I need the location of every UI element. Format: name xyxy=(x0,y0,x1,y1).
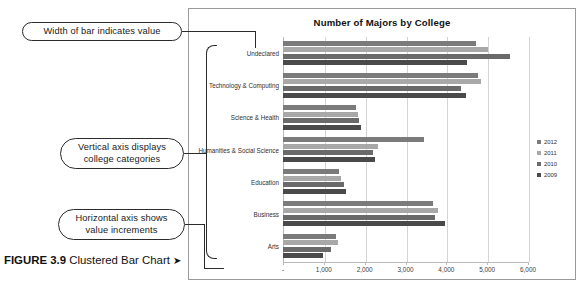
bar xyxy=(283,112,358,117)
bar xyxy=(283,105,356,110)
bar xyxy=(283,41,476,46)
bar xyxy=(283,73,478,78)
legend-item[interactable]: 2009 xyxy=(537,169,577,180)
legend-swatch-icon xyxy=(537,173,541,177)
bar xyxy=(283,157,375,162)
leader-line-3 xyxy=(185,224,205,225)
x-axis-tick xyxy=(324,262,325,265)
gridline xyxy=(488,37,489,262)
x-axis-tick xyxy=(406,262,407,265)
bar xyxy=(283,118,359,123)
x-axis-tick xyxy=(487,262,488,265)
x-axis-tick xyxy=(446,262,447,265)
x-axis-tick xyxy=(283,262,284,265)
legend-label: 2009 xyxy=(544,172,557,178)
leader-line-1-drop xyxy=(255,31,256,48)
annotation-text: Horizontal axis shows value increments xyxy=(68,213,175,236)
annotation-text: Vertical axis displays college categorie… xyxy=(70,142,174,165)
bar xyxy=(283,137,424,142)
x-axis-tick-label: 1,000 xyxy=(316,266,332,273)
bar xyxy=(283,182,344,187)
x-axis-tick xyxy=(365,262,366,265)
annotation-text: Width of bar indicates value xyxy=(43,26,160,37)
y-axis-category-label: Science & Health xyxy=(231,114,279,121)
bar xyxy=(283,93,466,98)
chart-legend: 2012201120102009 xyxy=(537,136,577,180)
legend-label: 2011 xyxy=(544,150,557,156)
bar xyxy=(283,234,336,239)
bar xyxy=(283,125,361,130)
legend-swatch-icon xyxy=(537,162,541,166)
category-axis-bracket xyxy=(206,45,217,259)
leader-line-3-drop xyxy=(204,224,205,269)
legend-item[interactable]: 2012 xyxy=(537,136,577,147)
bar xyxy=(283,208,438,213)
figure-caption: FIGURE 3.9 Clustered Bar Chart ➤ xyxy=(4,253,184,269)
bar xyxy=(283,247,331,252)
bar xyxy=(283,240,338,245)
y-axis-category-label: Undeclared xyxy=(247,50,279,57)
x-axis-tick-label: 2,000 xyxy=(357,266,373,273)
legend-label: 2012 xyxy=(544,139,557,145)
x-axis-tick xyxy=(528,262,529,265)
bar xyxy=(283,201,433,206)
legend-label: 2010 xyxy=(544,161,557,167)
bar xyxy=(283,47,488,52)
bar xyxy=(283,221,445,226)
bar xyxy=(283,253,323,258)
annotation-vertical-axis: Vertical axis displays college categorie… xyxy=(60,138,184,169)
figure-caption-text: Clustered Bar Chart xyxy=(66,254,173,266)
gridline xyxy=(529,37,530,262)
x-axis-tick-label: 3,000 xyxy=(398,266,414,273)
bar xyxy=(283,86,461,91)
legend-swatch-icon xyxy=(537,140,541,144)
bar xyxy=(283,176,341,181)
bar xyxy=(283,169,339,174)
leader-line-2 xyxy=(184,153,206,154)
bar xyxy=(283,54,510,59)
bar xyxy=(283,60,467,65)
legend-item[interactable]: 2011 xyxy=(537,147,577,158)
leader-line-1 xyxy=(182,31,256,32)
legend-swatch-icon xyxy=(537,151,541,155)
y-axis-category-label: Business xyxy=(253,210,279,217)
leader-line-3-tail xyxy=(204,268,224,269)
y-axis-category-label: Arts xyxy=(268,242,279,249)
x-axis-tick-label: 5,000 xyxy=(479,266,495,273)
chart-title: Number of Majors by College xyxy=(189,17,575,28)
figure-number: FIGURE 3.9 xyxy=(4,254,66,266)
annotation-horizontal-axis: Horizontal axis shows value increments xyxy=(58,209,185,240)
arrow-icon: ➤ xyxy=(173,255,181,266)
legend-item[interactable]: 2010 xyxy=(537,158,577,169)
x-axis-tick-label: 6,000 xyxy=(520,266,536,273)
bar xyxy=(283,79,481,84)
bar xyxy=(283,189,346,194)
bar xyxy=(283,215,435,220)
gridline xyxy=(447,37,448,262)
x-axis-tick-label: 4,000 xyxy=(438,266,454,273)
y-axis-category-label: Education xyxy=(251,178,279,185)
chart-container: Number of Majors by College 201220112010… xyxy=(188,8,576,280)
y-axis-category-label: Technology & Computing xyxy=(209,82,279,89)
annotation-width-of-bar: Width of bar indicates value xyxy=(22,22,182,41)
bar xyxy=(283,150,373,155)
bar xyxy=(283,144,378,149)
x-axis-tick-label: - xyxy=(282,266,284,273)
gridline xyxy=(407,37,408,262)
